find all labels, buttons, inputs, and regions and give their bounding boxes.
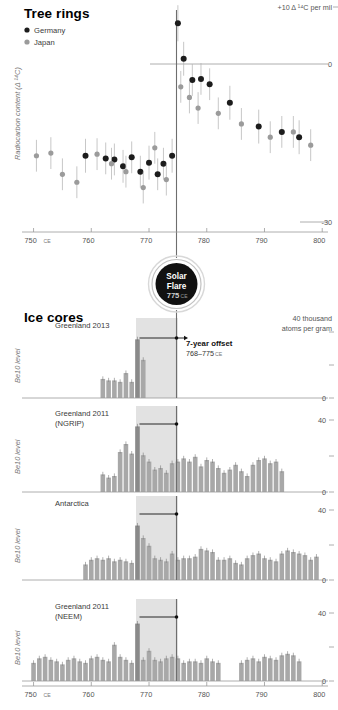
ice-core-y-tick: 40: [318, 609, 326, 618]
ice-core-bar: [268, 463, 273, 492]
ice-core-bar: [106, 478, 111, 492]
offset-annotation-range: 768–775: [186, 349, 214, 358]
ice-core-bar: [101, 379, 106, 398]
ice-core-bar: [43, 657, 48, 681]
tree-ring-point: [195, 105, 200, 110]
tree-ring-point: [239, 121, 244, 126]
ice-core-bar: [129, 663, 134, 681]
ice-core-y-axis-label: Be10 level: [13, 528, 22, 563]
ice-core-bar: [181, 458, 186, 492]
tree-rings-scatter: [34, 5, 313, 203]
tree-ring-point: [152, 145, 157, 150]
tree-ring-point: [164, 177, 169, 182]
ice-core-bar: [147, 546, 152, 580]
badge-line1: Solar: [166, 272, 187, 281]
ice-core-bar: [245, 558, 250, 580]
tree-rings-x-ticks: 750CE760770780790800: [25, 228, 326, 245]
ice-core-bar: [147, 651, 152, 681]
tree-ring-point: [83, 153, 89, 159]
ice-core-bar: [314, 557, 319, 580]
ice-core-panel-name: Greenland 2011: [55, 409, 109, 418]
ice-core-bar: [204, 550, 209, 580]
tree-ring-point: [155, 171, 161, 177]
tree-rings-y-axis-label: Radiocarbon content (Δ ¹⁴C): [13, 67, 22, 160]
tree-ring-point: [48, 151, 53, 156]
ice-core-bar: [124, 444, 129, 492]
ice-core-bar: [152, 558, 157, 580]
ice-core-bar: [141, 455, 146, 492]
ice-core-bar: [49, 660, 54, 681]
ice-core-bar: [129, 454, 134, 492]
ice-core-bar: [193, 457, 198, 492]
ice-core-bar: [101, 560, 106, 580]
ice-core-bar: [170, 463, 175, 492]
tree-ring-point: [109, 161, 114, 166]
ice-core-bar: [170, 657, 175, 681]
offset-annotation-bold: 7-year offset: [186, 339, 233, 348]
offset-annotation: 7-year offset 768–775 CE: [186, 339, 233, 358]
ice-core-y-tick: 40: [318, 416, 326, 425]
ice-core-bar: [141, 360, 146, 398]
ice-core-y-axis-label: Be10 level: [13, 439, 22, 474]
ice-core-bar: [256, 554, 261, 580]
ice-core-panel-name: Greenland 2013: [55, 321, 109, 330]
legend-marker-japan: [24, 39, 29, 44]
ice-core-bar: [297, 661, 302, 681]
ice-core-bar: [77, 661, 82, 681]
legend-marker-germany: [24, 27, 29, 32]
ice-core-bar: [135, 526, 140, 580]
ice-core-bar: [251, 658, 256, 681]
x-tick-label: 780: [198, 236, 210, 245]
ice-core-panels: 0Greenland 2013Be10 level400Greenland 20…: [13, 318, 334, 686]
ice-core-panel-name: Antarctica: [55, 499, 90, 508]
ice-core-bar: [199, 549, 204, 580]
ice-core-bar: [72, 658, 77, 681]
ice-core-bar: [210, 661, 215, 681]
ice-core-bar: [291, 552, 296, 580]
ice-core-bar: [204, 460, 209, 492]
ice-core-bar: [285, 550, 290, 580]
tree-ring-point: [187, 95, 192, 100]
ice-core-bar: [291, 655, 296, 681]
ice-core-bar: [256, 661, 261, 681]
ice-core-bar: [164, 473, 169, 492]
ice-core-bar: [308, 560, 313, 580]
tree-rings-ytick-minus30: -30: [321, 218, 332, 227]
ice-core-bar: [193, 661, 198, 681]
ice-core-y-tick: 0: [322, 576, 326, 585]
ice-core-bar: [95, 558, 100, 580]
ice-core-bar: [204, 658, 209, 681]
ice-core-bar: [112, 561, 117, 580]
badge-era: CE: [181, 293, 189, 299]
ice-core-bar: [280, 655, 285, 681]
ice-core-y-tick: 0: [322, 394, 326, 403]
ice-core-panel: 400Greenland 2011(NGRIP)Be10 level: [13, 406, 334, 497]
ice-core-bar: [222, 560, 227, 580]
ice-core-bar: [129, 382, 134, 398]
ice-core-bar: [210, 462, 215, 492]
ice-core-bar: [297, 554, 302, 580]
tree-ring-point: [146, 160, 152, 166]
ice-core-bar: [112, 380, 117, 398]
tree-ring-point: [34, 153, 39, 158]
tree-rings-corner-note: +10 Δ ¹⁴C per mil: [278, 3, 333, 12]
ice-core-bar: [164, 561, 169, 580]
tree-ring-point: [296, 134, 302, 140]
ice-core-bar: [187, 661, 192, 681]
legend-label-japan: Japan: [34, 38, 55, 47]
ice-core-bar: [303, 555, 308, 580]
ice-core-bar: [228, 470, 233, 492]
ice-core-bar: [222, 473, 227, 492]
ice-core-bar: [274, 462, 279, 492]
ice-core-panel: 400Greenland 2011(NEEM)Be10 level: [13, 599, 334, 686]
x-tick-label: 770: [140, 690, 152, 699]
ice-core-bar: [112, 645, 117, 681]
ice-core-bar: [262, 657, 267, 681]
ice-core-bar: [124, 561, 129, 580]
tree-rings-ytick-0: 0: [328, 60, 332, 69]
ice-core-bar: [233, 563, 238, 580]
x-tick-label: 800: [313, 690, 325, 699]
ice-core-bar: [268, 658, 273, 681]
tree-ring-point: [137, 169, 143, 175]
ice-core-bar: [170, 554, 175, 580]
